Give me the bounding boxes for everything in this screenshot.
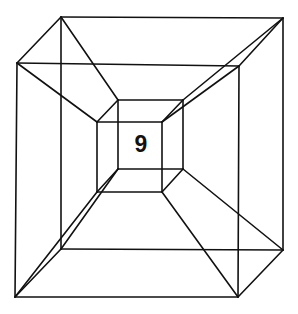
edge-outer_back_tl-inner_back_tl xyxy=(61,17,118,100)
edge-outer_back_bl-outer_front_bl xyxy=(15,249,61,297)
edge-outer_back_br-outer_front_br xyxy=(238,250,283,297)
diagram-edges xyxy=(15,17,283,297)
edge-outer_front_bl-inner_front_bl xyxy=(15,192,97,297)
edge-outer_back_tr-outer_front_tr xyxy=(239,18,283,66)
edge-outer_back_br-inner_back_br xyxy=(183,169,283,250)
edge-outer_front_tr-outer_front_br xyxy=(238,66,239,297)
edge-outer_back_tl-outer_front_tl xyxy=(17,17,61,63)
edge-inner_back_tr-inner_front_tr xyxy=(162,100,183,122)
edge-outer_back_br-outer_back_bl xyxy=(61,249,283,250)
edge-outer_back_tr-inner_back_tr xyxy=(183,18,283,100)
edge-outer_back_tl-outer_back_tr xyxy=(61,17,283,18)
hypercube-diagram: 9 xyxy=(0,0,298,314)
edge-inner_back_tl-inner_front_tl xyxy=(97,100,118,122)
edge-outer_front_bl-outer_front_tl xyxy=(15,63,17,297)
edge-outer_front_tr-inner_front_tr xyxy=(162,66,239,122)
edge-inner_back_br-inner_front_br xyxy=(162,169,183,192)
center-label: 9 xyxy=(135,131,148,157)
edge-outer_back_bl-inner_back_bl xyxy=(61,169,118,249)
edge-outer_front_tl-inner_front_tl xyxy=(17,63,97,122)
edge-outer_front_br-inner_front_br xyxy=(162,192,238,297)
edge-outer_front_tl-outer_front_tr xyxy=(17,63,239,66)
